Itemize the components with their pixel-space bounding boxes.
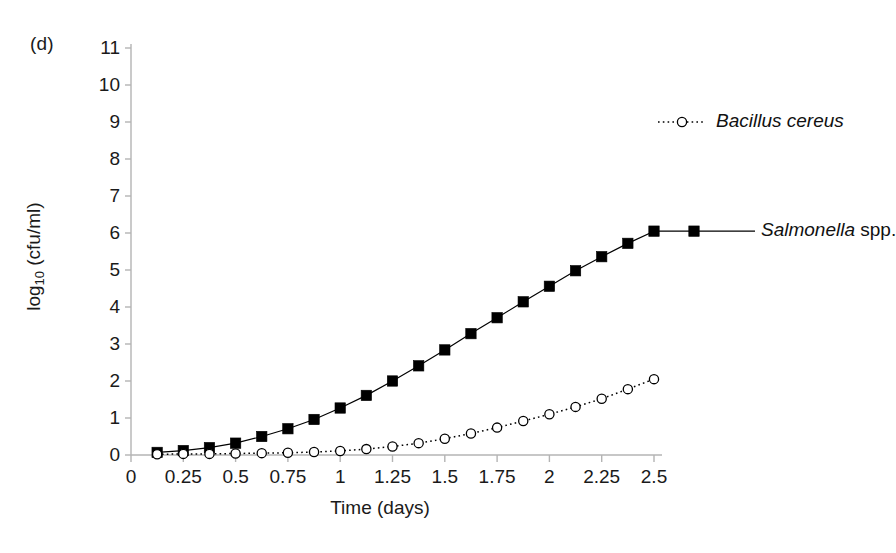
legend-label-salmonella-spp: Salmonella spp. — [761, 219, 896, 241]
series-bacillus-cereus — [153, 375, 659, 459]
legend-marker-salmonella-spp — [689, 226, 699, 236]
series-salmonella-spp — [152, 226, 659, 458]
axis-lines — [125, 44, 662, 462]
legend-connector-layer — [654, 117, 755, 236]
legend-label-bacillus-cereus: Bacillus cereus — [716, 110, 844, 132]
legend-species-qualifier: spp. — [855, 219, 896, 240]
legend-species-name: Salmonella — [761, 219, 855, 240]
legend-marker-bacillus-cereus — [677, 117, 686, 126]
series-layer — [152, 226, 659, 459]
legend-species-name: Bacillus cereus — [716, 110, 844, 131]
